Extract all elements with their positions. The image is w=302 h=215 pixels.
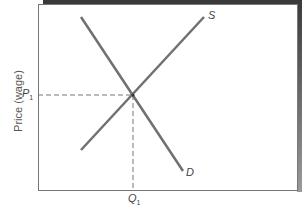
- equilibrium-point: [132, 94, 135, 97]
- supply-label: S: [208, 9, 215, 21]
- q1-label: Q1: [128, 192, 140, 206]
- plot-frame: [39, 5, 298, 191]
- demand-label: D: [186, 166, 194, 178]
- supply-demand-chart: [0, 0, 302, 215]
- p1-label: P1: [22, 87, 33, 101]
